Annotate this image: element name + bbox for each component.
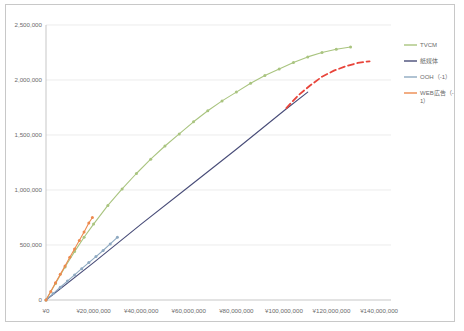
data-point-marker (349, 46, 352, 49)
y-tick-label: 1,000,000 (14, 186, 42, 193)
data-point-marker (121, 187, 124, 190)
data-point-marker (278, 68, 281, 71)
data-point-marker (206, 109, 209, 112)
x-tick-label: ¥120,000,000 (313, 307, 351, 314)
data-point-marker (83, 231, 86, 234)
x-tick-label: ¥100,000,000 (265, 307, 303, 314)
data-point-marker (116, 236, 119, 239)
data-point-marker (335, 48, 338, 51)
data-point-marker (106, 204, 109, 207)
data-point-marker (68, 256, 71, 259)
data-point-marker (178, 132, 181, 135)
data-point-marker (102, 249, 105, 252)
data-point-marker (92, 223, 95, 226)
data-point-marker (87, 261, 90, 264)
data-point-marker (73, 247, 76, 250)
data-point-marker (59, 273, 62, 276)
series-line (46, 92, 308, 300)
data-point-marker (66, 280, 69, 283)
data-point-marker (149, 158, 152, 161)
x-tick-label: ¥60,000,000 (172, 307, 207, 314)
x-tick-label: ¥140,000,000 (360, 307, 398, 314)
data-point-marker (54, 281, 57, 284)
legend-label: OOH（-1） (420, 74, 451, 80)
y-tick-label: 2,500,000 (14, 21, 42, 28)
line-chart: 0500,0001,000,0001,500,0002,000,0002,500… (0, 0, 464, 331)
y-tick-label: 0 (39, 296, 43, 303)
y-axis-labels: 0500,0001,000,0001,500,0002,000,0002,500… (14, 21, 42, 303)
data-point-marker (45, 299, 48, 302)
y-tick-label: 2,000,000 (14, 76, 42, 83)
data-point-marker (306, 55, 309, 58)
legend-label: TVCM (420, 42, 437, 48)
data-point-marker (91, 216, 94, 219)
data-point-marker (78, 239, 81, 242)
x-tick-label: ¥80,000,000 (219, 307, 254, 314)
y-tick-label: 500,000 (20, 241, 43, 248)
chart-screenshot: 0500,0001,000,0001,500,0002,000,0002,500… (0, 0, 464, 331)
x-tick-label: ¥0 (43, 307, 50, 314)
data-point-marker (249, 82, 252, 85)
data-point-marker (64, 264, 67, 267)
legend-label: WEB広告（- (420, 89, 454, 97)
data-point-marker (135, 172, 138, 175)
x-axis-labels: ¥0¥20,000,000¥40,000,000¥60,000,000¥80,0… (43, 307, 399, 314)
data-point-marker (59, 286, 62, 289)
y-tick-label: 1,500,000 (14, 131, 42, 138)
legend-label: 紙媒体 (420, 57, 438, 65)
legend-label-continued: 1） (420, 98, 429, 104)
data-point-marker (49, 290, 52, 293)
series-line (46, 47, 351, 300)
data-point-marker (235, 91, 238, 94)
data-point-marker (87, 222, 90, 225)
series-line (286, 61, 369, 108)
series-line (46, 218, 92, 301)
data-point-marker (292, 61, 295, 64)
x-tick-label: ¥40,000,000 (124, 307, 159, 314)
data-point-marker (109, 242, 112, 245)
data-point-marker (94, 255, 97, 258)
data-point-marker (83, 236, 86, 239)
data-point-marker (192, 120, 195, 123)
x-tick-label: ¥20,000,000 (76, 307, 111, 314)
data-point-marker (80, 267, 83, 270)
data-point-marker (163, 145, 166, 148)
data-point-marker (73, 273, 76, 276)
series-group (45, 46, 370, 302)
data-point-marker (221, 99, 224, 102)
data-point-marker (52, 292, 55, 295)
chart-legend: TVCM紙媒体OOH（-1）WEB広告（-1） (404, 42, 454, 103)
data-point-marker (263, 74, 266, 77)
data-point-marker (321, 51, 324, 54)
